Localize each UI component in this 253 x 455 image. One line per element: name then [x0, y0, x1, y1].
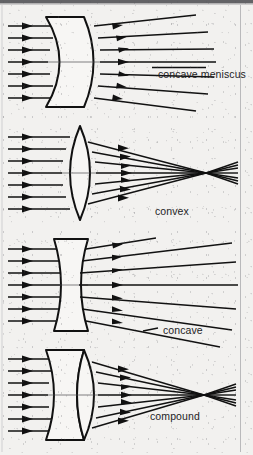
panel-concave-meniscus: [8, 15, 216, 111]
outgoing-ray-arrowheads-concave: [112, 243, 123, 325]
incoming-ray-arrowheads-compound: [22, 356, 33, 435]
label-compound: compound: [150, 410, 200, 422]
label-concave: concave: [163, 324, 203, 336]
diverging-rays-after-focus-compound: [204, 384, 236, 406]
label-leader-concave: [143, 328, 158, 331]
panel-convex: [8, 126, 238, 220]
label-convex: convex: [155, 205, 189, 217]
outgoing-rays-meniscus: [94, 15, 216, 111]
incoming-ray-arrowheads-concave: [22, 246, 33, 325]
incoming-rays-convex: [8, 137, 70, 209]
incoming-ray-arrowheads-convex: [22, 134, 33, 213]
incoming-ray-arrowheads-meniscus: [22, 23, 33, 102]
converging-rays-convex: [88, 142, 206, 204]
outgoing-rays-concave: [79, 238, 238, 347]
panel-concave: [8, 238, 238, 347]
panel-compound: [8, 350, 236, 440]
lens-diagram-figure: concave meniscus convex concave compound: [0, 0, 253, 455]
label-concave-meniscus: concave meniscus: [158, 68, 246, 80]
diverging-rays-after-focus-convex: [206, 162, 238, 184]
